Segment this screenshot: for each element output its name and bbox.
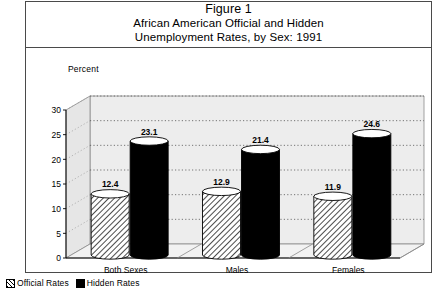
bar-females-hidden-body: [353, 134, 391, 260]
figure-number: Figure 1: [25, 2, 432, 16]
title-divider: [25, 47, 432, 48]
chart-legend: Official Rates Hidden Rates: [6, 278, 147, 288]
bar-value-label: 12.4: [102, 179, 119, 189]
bar-both-sexes-official-top: [91, 190, 129, 198]
legend-item-official: Official Rates: [6, 278, 69, 288]
legend-label-official: Official Rates: [17, 278, 69, 288]
bar-value-label: 11.9: [325, 182, 341, 192]
bar-value-label: 21.4: [252, 135, 269, 145]
bar-females-official-top: [314, 192, 352, 200]
bar-value-label: 12.9: [213, 177, 230, 187]
solid-black-swatch-icon: [76, 279, 85, 288]
bar-females-official: [314, 192, 352, 259]
y-axis-tick-label: 30: [52, 105, 62, 115]
bar-both-sexes-hidden-body: [130, 141, 168, 259]
bar-value-label: 24.6: [364, 119, 381, 129]
bar-females-hidden: [353, 129, 391, 259]
bar-males-official-top: [203, 187, 241, 195]
bar-males-hidden-body: [242, 149, 280, 259]
legend-item-hidden: Hidden Rates: [76, 278, 140, 288]
legend-label-hidden: Hidden Rates: [87, 278, 140, 288]
bar-females-hidden-top: [353, 129, 391, 137]
y-axis-tick-label: 20: [52, 155, 62, 165]
bar-both-sexes-official-body: [91, 194, 129, 259]
bar-both-sexes-hidden-top: [130, 137, 168, 145]
x-axis-category-label: Both Sexes: [104, 265, 147, 273]
bar-males-official: [203, 187, 241, 259]
y-axis-tick-label: 10: [52, 204, 62, 214]
figure-title-line-3: Unemployment Rates, by Sex: 1991: [25, 30, 432, 44]
figure-screenshot: Figure 1 African American Official and H…: [0, 0, 446, 293]
bar-value-label: 23.1: [141, 127, 158, 137]
figure-title-block: Figure 1 African American Official and H…: [25, 2, 432, 44]
bar-males-hidden: [242, 145, 280, 259]
x-axis-category-label: Females: [332, 265, 365, 273]
hatched-swatch-icon: [6, 279, 15, 288]
y-axis-tick-label: 15: [52, 179, 62, 189]
bar-chart-plot: 05101520253012.423.1Both Sexes12.921.4Ma…: [25, 55, 432, 273]
y-axis-tick-label: 5: [56, 229, 61, 239]
figure-title-line-2: African American Official and Hidden: [25, 16, 432, 30]
y-axis-tick-label: 25: [52, 130, 62, 140]
bar-males-official-body: [203, 191, 241, 259]
x-axis-category-label: Males: [226, 265, 249, 273]
bar-females-official-body: [314, 196, 352, 259]
bar-both-sexes-official: [91, 190, 129, 260]
y-axis-tick-label: 0: [56, 253, 61, 263]
bar-both-sexes-hidden: [130, 137, 168, 259]
bar-males-hidden-top: [242, 145, 280, 153]
